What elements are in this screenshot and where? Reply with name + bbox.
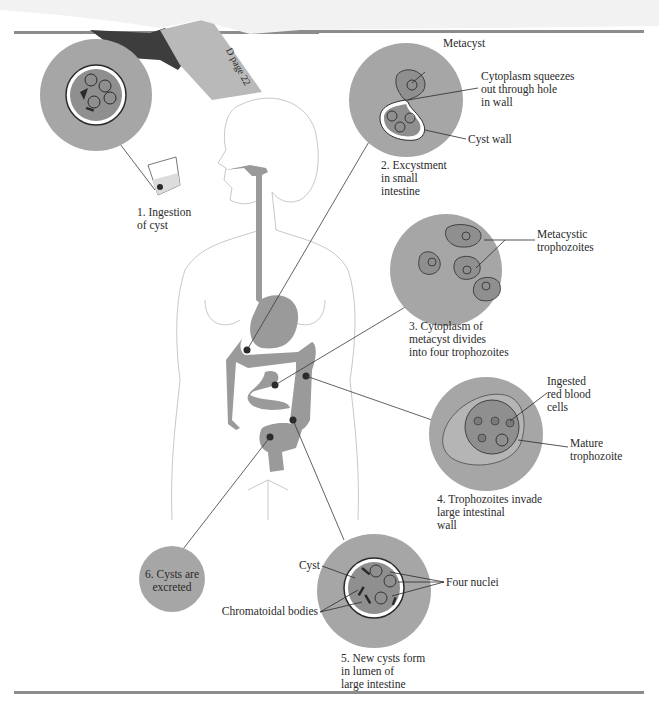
step-2-label: 2. Excystment in small intestine xyxy=(381,159,447,198)
new-cyst-disc-step-5 xyxy=(317,534,431,648)
callout-four-nuclei: Four nuclei xyxy=(446,576,499,589)
step-3-label: 3. Cytoplasm of metacyst divides into fo… xyxy=(409,320,509,359)
digestive-tract xyxy=(225,165,316,472)
drinking-glass-icon xyxy=(148,157,180,195)
trophozoites-disc-step-3 xyxy=(390,214,502,326)
callout-metacyst: Metacyst xyxy=(443,37,485,50)
callout-cytoplasm-squeezes: Cytoplasm squeezes out through hole in w… xyxy=(481,70,575,109)
callout-ingested-rbc: Ingested red blood cells xyxy=(547,375,591,414)
cyst-disc-step-1 xyxy=(40,39,152,151)
callout-cyst: Cyst xyxy=(280,559,320,572)
top-rule-right xyxy=(272,30,644,33)
step-6-label: 6. Cysts are excreted xyxy=(140,568,204,594)
mature-trophozoite-disc-step-4 xyxy=(429,377,543,491)
step-4-label: 4. Trophozoites invade large intestinal … xyxy=(437,493,542,532)
callout-mature-trophozoite: Mature trophozoite xyxy=(570,437,622,463)
callout-cyst-wall: Cyst wall xyxy=(468,133,512,146)
bottom-rule xyxy=(14,691,644,694)
step-1-label: 1. Ingestion of cyst xyxy=(137,206,191,232)
step-5-label: 5. New cysts form in lumen of large inte… xyxy=(341,652,425,691)
excystment-disc-step-2 xyxy=(349,43,463,157)
callout-metacystic-trophozoites: Metacystic trophozoites xyxy=(537,228,594,254)
callout-chromatoidal-bodies: Chromatoidal bodies xyxy=(206,605,318,618)
